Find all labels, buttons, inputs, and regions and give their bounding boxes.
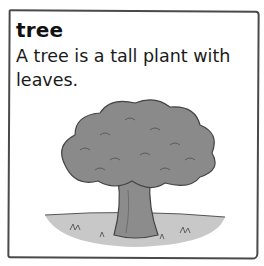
word-definition: A tree is a tall plant with leaves. xyxy=(16,44,251,92)
word-title: tree xyxy=(16,18,63,42)
tree-illustration xyxy=(40,95,230,255)
